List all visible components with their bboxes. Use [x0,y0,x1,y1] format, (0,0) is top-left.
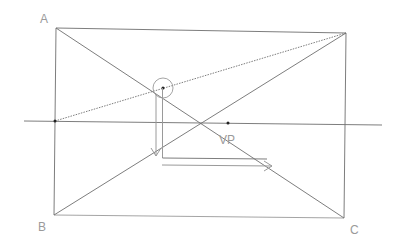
dotted-guide-line [55,33,346,121]
right-edge [344,33,346,218]
perspective-diagram: A B C VP [0,0,405,243]
label-VP: VP [219,134,235,146]
horizontal-segment [163,158,268,159]
top-edge [56,28,346,33]
label-B: B [38,221,46,233]
label-C: C [350,224,359,236]
vanishing-point-dot [227,122,230,125]
label-A: A [40,13,48,25]
horizon-left-point [54,120,57,123]
diagram-canvas [0,0,405,243]
down-arrow [151,88,163,158]
right-arrow [162,161,272,171]
bottom-edge [54,215,344,218]
